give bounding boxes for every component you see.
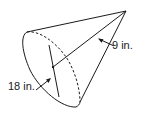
base-center-point xyxy=(52,66,54,68)
radius-line xyxy=(49,45,59,97)
slant-arrow-icon xyxy=(98,39,104,43)
cone-diagram: 9 in. 18 in. xyxy=(0,0,145,122)
cone-upper-edge xyxy=(27,11,126,32)
cone-lower-edge xyxy=(80,11,126,102)
cone-drawing xyxy=(0,0,145,122)
radius-label: 18 in. xyxy=(8,81,35,92)
slant-height-label: 9 in. xyxy=(112,40,133,51)
radius-arrow-icon xyxy=(46,78,51,83)
cone-base-front-arc xyxy=(23,32,80,107)
